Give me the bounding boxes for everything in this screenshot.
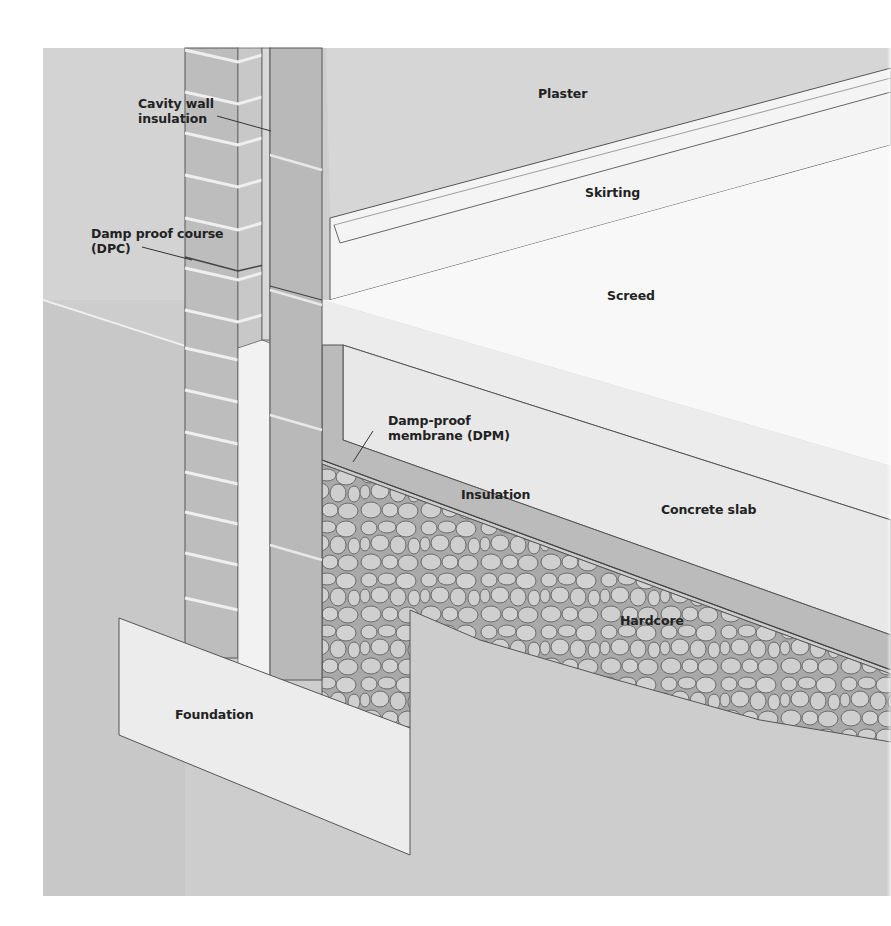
label-plaster: Plaster [538,86,587,101]
label-insulation: Insulation [461,487,530,502]
cavity [238,340,270,680]
wall-floor-cross-section-diagram [0,0,891,926]
label-dpm: Damp-proof membrane (DPM) [388,413,510,443]
label-skirting: Skirting [585,185,640,200]
label-cavity-wall-insulation: Cavity wall insulation [138,96,214,126]
outer-wall-face [43,48,185,300]
outer-brick-side [238,48,262,348]
inner-block-leaf [270,48,322,680]
label-concrete-slab: Concrete slab [661,502,756,517]
label-screed: Screed [607,288,655,303]
label-dpc: Damp proof course (DPC) [91,226,224,256]
label-hardcore: Hardcore [620,613,684,628]
ground-below [43,301,185,896]
cavity-insulation-strip [262,48,270,340]
label-foundation: Foundation [175,707,254,722]
